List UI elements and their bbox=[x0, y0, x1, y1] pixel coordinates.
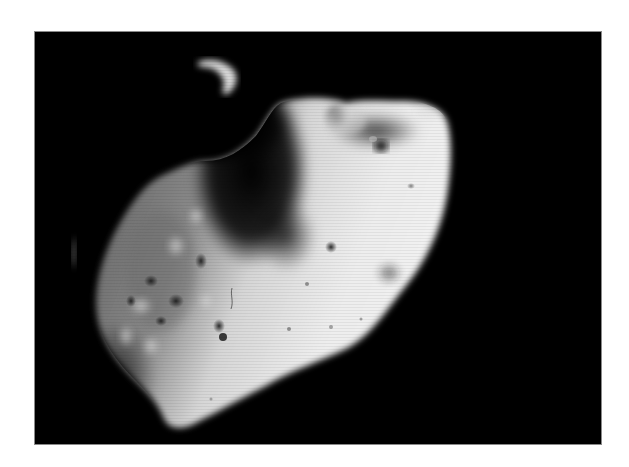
asteroid-photograph bbox=[34, 31, 602, 445]
asteroid-illustration bbox=[34, 31, 602, 445]
